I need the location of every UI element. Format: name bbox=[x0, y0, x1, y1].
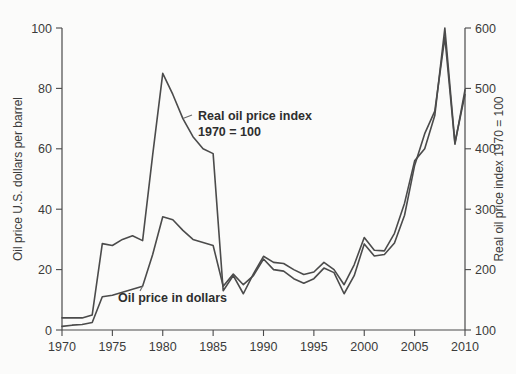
oil-price-chart: 020406080100 100200300400500600 19701975… bbox=[0, 0, 516, 374]
x-tick-label: 1985 bbox=[199, 340, 227, 354]
x-tick-label: 1995 bbox=[300, 340, 328, 354]
left-axis: 020406080100 bbox=[31, 22, 62, 338]
y-tick-label-left: 100 bbox=[31, 22, 52, 36]
y-tick-label-left: 60 bbox=[38, 142, 52, 156]
x-tick-label: 2005 bbox=[401, 340, 429, 354]
y-tick-label-right: 100 bbox=[475, 324, 496, 338]
x-tick-label: 1990 bbox=[250, 340, 278, 354]
x-tick-label: 1975 bbox=[98, 340, 126, 354]
y-tick-label-right: 200 bbox=[475, 263, 496, 277]
y-tick-label-left: 0 bbox=[45, 324, 52, 338]
annotation-real-index-line1: Real oil price index bbox=[198, 109, 312, 123]
left-axis-title: Oil price U.S. dollars per barrel bbox=[11, 97, 25, 261]
y-tick-label-left: 40 bbox=[38, 203, 52, 217]
x-tick-label: 2000 bbox=[350, 340, 378, 354]
right-axis-title: Real oil price index 1970 = 100 bbox=[492, 96, 506, 261]
y-tick-label-right: 500 bbox=[475, 82, 496, 96]
y-tick-label-left: 80 bbox=[38, 82, 52, 96]
y-tick-label-left: 20 bbox=[38, 263, 52, 277]
x-tick-label: 2010 bbox=[451, 340, 479, 354]
leader-line-real-index bbox=[183, 115, 192, 119]
series-line-real-oil-price-index-1970-100 bbox=[62, 28, 465, 318]
chart-figure: 020406080100 100200300400500600 19701975… bbox=[0, 0, 516, 374]
x-axis: 197019751980198519901995200020052010 bbox=[48, 330, 479, 354]
x-tick-label: 1980 bbox=[149, 340, 177, 354]
series-lines bbox=[62, 28, 465, 326]
annotation-dollar-price-line1: Oil price in dollars bbox=[118, 291, 227, 305]
series-line-oil-price-in-dollars bbox=[62, 37, 465, 326]
annotation-real-index-line2: 1970 = 100 bbox=[198, 125, 261, 139]
x-tick-label: 1970 bbox=[48, 340, 76, 354]
y-tick-label-right: 600 bbox=[475, 22, 496, 36]
